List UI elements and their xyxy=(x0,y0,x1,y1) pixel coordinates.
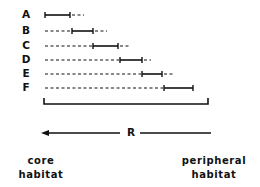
range-row-c xyxy=(45,43,129,49)
row-label-f: F xyxy=(20,82,32,93)
row-label-d: D xyxy=(20,54,32,65)
peripheral-habitat-label: peripheral habitat xyxy=(176,154,252,182)
row-label-a: A xyxy=(20,9,32,20)
range-row-a xyxy=(45,12,84,18)
total-range-bracket xyxy=(44,98,208,104)
row-label-c: C xyxy=(20,40,32,51)
peripheral-habitat-line1: peripheral xyxy=(176,154,252,168)
core-habitat-label: core habitat xyxy=(10,154,72,182)
row-label-e: E xyxy=(20,68,32,79)
bracket-line xyxy=(44,98,208,104)
range-row-f xyxy=(45,85,193,91)
gradient-arrow xyxy=(41,130,211,136)
gradient-label-r: R xyxy=(127,127,135,138)
core-habitat-line2: habitat xyxy=(10,168,72,182)
core-habitat-line1: core xyxy=(10,154,72,168)
range-row-e xyxy=(45,71,174,77)
range-row-b xyxy=(45,28,107,34)
range-bars xyxy=(45,12,193,91)
range-row-d xyxy=(45,57,151,63)
arrowhead-icon xyxy=(41,130,49,136)
peripheral-habitat-line2: habitat xyxy=(176,168,252,182)
row-label-b: B xyxy=(20,25,32,36)
